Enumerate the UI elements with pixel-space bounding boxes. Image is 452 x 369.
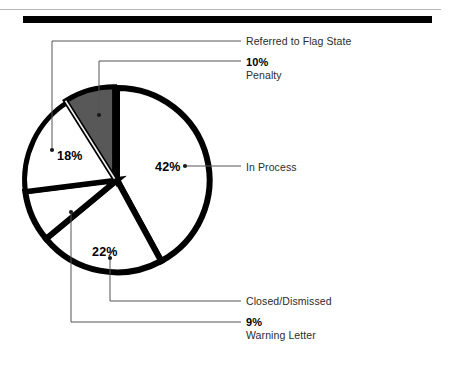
callout-percent-warning-letter: 9% bbox=[246, 316, 316, 329]
callout-label-in-process: In Process bbox=[246, 161, 297, 173]
leader-dot-penalty bbox=[97, 113, 101, 117]
callout-label-penalty: Penalty bbox=[246, 69, 282, 81]
callout-penalty: 10% Penalty bbox=[246, 56, 282, 81]
leader-dot-flag-state bbox=[50, 148, 54, 152]
callout-warning-letter: 9% Warning Letter bbox=[246, 316, 316, 341]
callout-percent-penalty: 10% bbox=[246, 56, 282, 69]
callout-label-flag-state: Referred to Flag State bbox=[246, 35, 352, 47]
leader-dot-in-process bbox=[183, 164, 187, 168]
callout-label-closed-dismissed: Closed/Dismissed bbox=[246, 295, 332, 307]
slice-percent-flag-state: 18% bbox=[57, 149, 83, 164]
leader-dot-warning-letter bbox=[69, 210, 73, 214]
slice-percent-closed-dismissed: 22% bbox=[92, 245, 118, 260]
callout-in-process: In Process bbox=[246, 161, 297, 173]
callout-closed-dismissed: Closed/Dismissed bbox=[246, 295, 332, 307]
callout-referred-to-flag-state: Referred to Flag State bbox=[246, 35, 352, 47]
pie-chart bbox=[0, 0, 452, 369]
callout-label-warning-letter: Warning Letter bbox=[246, 329, 316, 341]
slice-percent-in-process: 42% bbox=[155, 160, 181, 175]
